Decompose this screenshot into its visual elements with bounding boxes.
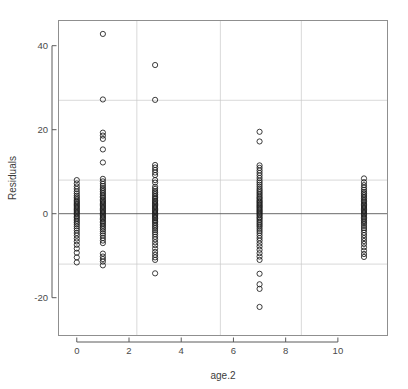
x-tick-label: 8 — [283, 345, 288, 356]
data-point — [100, 136, 105, 141]
data-point — [257, 257, 262, 262]
x-tick-label: 2 — [126, 345, 131, 356]
x-tick-label: 0 — [74, 345, 79, 356]
data-point — [153, 62, 158, 67]
data-point — [257, 304, 262, 309]
x-tick-label: 6 — [231, 345, 236, 356]
data-point — [153, 97, 158, 102]
data-point — [153, 271, 158, 276]
y-tick-label: 40 — [37, 40, 48, 51]
vertical-gridlines — [137, 21, 302, 336]
x-axis: 0246810 — [74, 338, 343, 357]
data-point — [100, 31, 105, 36]
y-axis: -2002040 — [34, 40, 56, 303]
data-point — [257, 271, 262, 276]
data-point — [100, 97, 105, 102]
x-axis-title: age.2 — [210, 370, 235, 381]
residuals-scatter-figure: 0246810 -2002040 age.2 Residuals — [0, 0, 408, 389]
y-tick-label: -20 — [34, 292, 48, 303]
horizontal-gridlines — [59, 100, 388, 264]
data-point — [257, 129, 262, 134]
y-tick-label: 20 — [37, 124, 48, 135]
y-axis-title: Residuals — [7, 156, 18, 200]
data-point — [100, 263, 105, 268]
y-tick-label: 0 — [43, 208, 48, 219]
data-point — [100, 147, 105, 152]
plot-border — [59, 21, 388, 336]
plot-canvas: 0246810 -2002040 age.2 Residuals — [0, 0, 408, 389]
data-point — [257, 139, 262, 144]
x-tick-label: 10 — [333, 345, 344, 356]
x-tick-label: 4 — [179, 345, 184, 356]
data-point — [100, 160, 105, 165]
